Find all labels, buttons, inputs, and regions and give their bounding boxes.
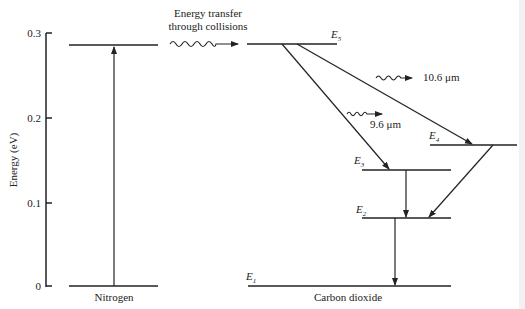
label-e1: E1 (245, 270, 256, 285)
co2-label: Carbon dioxide (314, 291, 382, 303)
tick-0: 0 (36, 280, 42, 292)
transition-e4-e2 (429, 145, 493, 217)
page-edge (519, 0, 525, 309)
label-e4: E4 (428, 129, 440, 144)
axis-label: Energy (eV) (7, 132, 20, 187)
energy-axis: 0.3 0.2 0.1 0 Energy (eV) (7, 27, 52, 292)
tick-0.1: 0.1 (27, 197, 41, 209)
energy-transfer: Energy transfer through collisions (168, 7, 247, 47)
emission-10-6: 10.6 μm (376, 71, 460, 83)
transfer-label-line2: through collisions (168, 20, 247, 32)
label-e5: E5 (330, 28, 342, 43)
transition-e5-e3 (282, 44, 389, 169)
wavy-transfer-arrow-icon (170, 42, 238, 47)
tick-0.3: 0.3 (27, 27, 41, 39)
energy-level-diagram: 0.3 0.2 0.1 0 Energy (eV) Nitrogen Energ… (0, 0, 525, 309)
label-e3: E3 (353, 154, 365, 169)
label-e2: E2 (355, 203, 367, 218)
emission-9-6: 9.6 μm (347, 112, 401, 130)
transfer-label-line1: Energy transfer (174, 7, 242, 19)
transitions (282, 44, 493, 285)
co2-levels: E5 E4 E3 E2 E1 Carbon dioxide (245, 28, 517, 303)
wavelength-9-6: 9.6 μm (370, 118, 401, 130)
nitrogen-levels: Nitrogen (69, 45, 158, 303)
wavy-photon-icon (347, 112, 382, 116)
tick-0.2: 0.2 (27, 112, 41, 124)
wavy-photon-icon (376, 76, 412, 80)
wavelength-10-6: 10.6 μm (423, 71, 460, 83)
nitrogen-label: Nitrogen (94, 291, 134, 303)
